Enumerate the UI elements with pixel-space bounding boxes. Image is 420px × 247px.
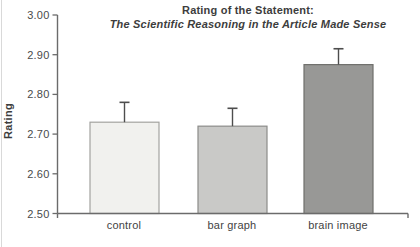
y-tick-label-2.80: 2.80 [27, 88, 49, 100]
x-category-label-control: control [79, 219, 169, 231]
x-category-label-brain-image: brain image [293, 219, 383, 231]
bar-control [90, 122, 159, 213]
plot-area: 3.002.902.802.702.602.50 [0, 0, 420, 247]
y-tick-label-2.90: 2.90 [27, 49, 49, 61]
bar-chart-figure: Rating of the Statement: The Scientific … [0, 0, 420, 247]
y-tick-label-2.50: 2.50 [27, 208, 49, 220]
y-tick-label-3.00: 3.00 [27, 9, 49, 21]
bar-brain-image [304, 65, 373, 214]
bar-bar-graph [198, 126, 267, 213]
y-tick-label-2.70: 2.70 [27, 128, 49, 140]
y-tick-label-2.60: 2.60 [27, 168, 49, 180]
x-category-label-bar-graph: bar graph [187, 219, 277, 231]
